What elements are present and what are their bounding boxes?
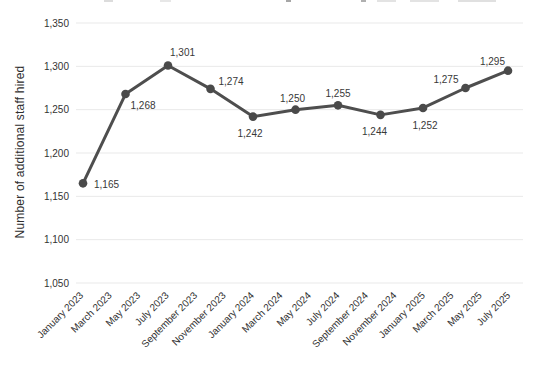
title-remnant-mark xyxy=(286,0,291,2)
data-point-marker xyxy=(164,61,173,70)
y-tick-label: 1,050 xyxy=(44,278,69,289)
data-point-label: 1,165 xyxy=(94,179,119,190)
line-chart: 1,3501,3001,2501,2001,1501,1001,050Janua… xyxy=(0,0,533,374)
data-point-label: 1,252 xyxy=(412,120,437,131)
data-point-label: 1,274 xyxy=(219,76,244,87)
data-point-label: 1,295 xyxy=(480,56,505,67)
title-remnant-mark xyxy=(458,0,496,2)
y-tick-label: 1,350 xyxy=(44,18,69,29)
y-axis-title: Number of additional staff hired xyxy=(12,2,28,302)
data-point-marker xyxy=(461,84,470,93)
data-point-marker xyxy=(121,90,130,99)
data-point-label: 1,301 xyxy=(170,47,195,58)
y-tick-label: 1,200 xyxy=(44,148,69,159)
data-point-marker xyxy=(206,85,215,94)
title-remnant-mark xyxy=(410,0,439,2)
data-point-marker xyxy=(334,101,343,110)
title-remnant-mark xyxy=(160,0,171,2)
title-remnant-mark xyxy=(361,0,366,2)
data-point-marker xyxy=(376,111,385,120)
data-point-marker xyxy=(504,66,513,75)
data-point-label: 1,275 xyxy=(433,74,458,85)
data-point-label: 1,242 xyxy=(237,128,262,139)
y-tick-label: 1,300 xyxy=(44,61,69,72)
chart-canvas: Number of additional staff hired 1,3501,… xyxy=(0,0,533,374)
y-tick-label: 1,100 xyxy=(44,234,69,245)
data-point-label: 1,244 xyxy=(362,126,387,137)
data-point-label: 1,250 xyxy=(280,93,305,104)
data-point-label: 1,268 xyxy=(131,100,156,111)
data-point-marker xyxy=(419,104,428,113)
data-point-marker xyxy=(291,105,300,114)
title-remnant-mark xyxy=(377,0,396,2)
y-tick-label: 1,150 xyxy=(44,191,69,202)
data-point-marker xyxy=(249,112,258,121)
data-point-marker xyxy=(79,179,88,188)
title-remnant-mark xyxy=(104,0,113,2)
y-tick-label: 1,250 xyxy=(44,104,69,115)
data-point-label: 1,255 xyxy=(325,88,350,99)
